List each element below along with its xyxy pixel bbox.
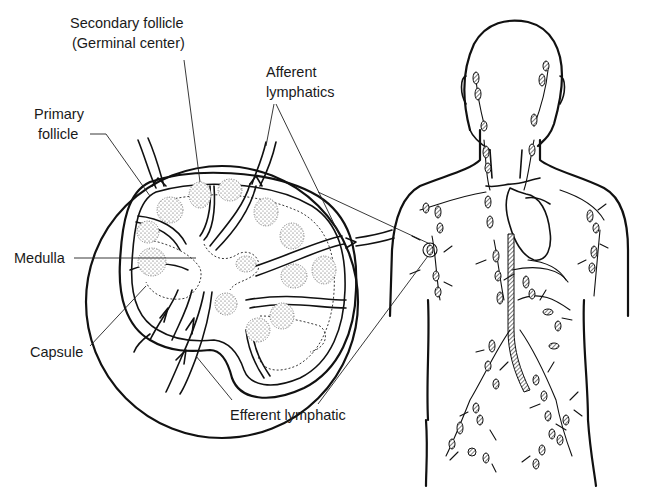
label-afferent: Afferent: [266, 64, 317, 80]
label-lymphatics: lymphatics: [266, 84, 335, 100]
head-outline: [464, 21, 562, 146]
secondary-follicle: [189, 182, 211, 208]
axillary-lymph-node: [427, 245, 433, 255]
torso-right-outline: [540, 140, 628, 316]
thoracic-duct: [508, 234, 530, 392]
label-secondary-follicle: Secondary follicle: [70, 15, 184, 31]
label-primary: Primary: [34, 106, 85, 122]
leader-secondary-follicle: [184, 60, 200, 182]
label-follicle: follicle: [38, 126, 78, 142]
label-efferent-lymphatic: Efferent lymphatic: [230, 407, 346, 423]
leader-capsule: [90, 286, 146, 346]
label-medulla: Medulla: [14, 250, 66, 266]
lymph-node-inset: [86, 138, 394, 438]
lymphatic-diagram: Secondary follicle (Germinal center) Aff…: [0, 0, 646, 502]
capsule-outline: [120, 173, 357, 398]
primary-follicle: [138, 248, 166, 276]
efferent-lymphatic-vessel: [134, 290, 212, 394]
label-capsule: Capsule: [30, 344, 83, 360]
human-figure: [390, 21, 628, 486]
torso-left-outline: [390, 130, 480, 316]
label-germinal-center: (Germinal center): [72, 35, 185, 51]
labels: Secondary follicle (Germinal center) Aff…: [14, 15, 430, 423]
